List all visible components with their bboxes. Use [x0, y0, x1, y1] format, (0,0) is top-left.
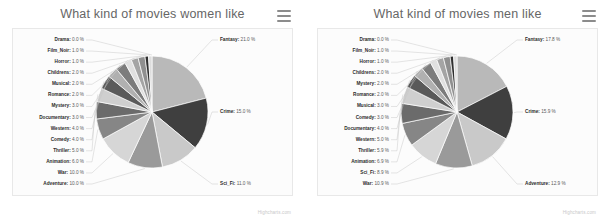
pie-data-label-value: 1.0 %: [376, 59, 389, 64]
pie-data-label-value: 4.0 %: [71, 125, 84, 130]
pie-label-connector: [391, 51, 455, 55]
pie-data-label: Film_Noir: 1.0 %: [353, 49, 389, 54]
pie-data-label-name: Comedy:: [356, 114, 376, 119]
pie-label-connector: [487, 40, 523, 63]
pie-label-connector: [86, 51, 150, 55]
pie-data-label-name: Childrens:: [353, 70, 376, 75]
pie-data-label-name: Film_Noir:: [48, 48, 71, 53]
pie-data-label-value: 10.9 %: [373, 181, 389, 186]
pie-data-label: Comedy: 3.0 %: [356, 115, 389, 120]
pie-data-label: Horror: 1.0 %: [55, 60, 84, 65]
pie-data-label-name: Mystery:: [51, 103, 70, 108]
pie-data-label-name: Musical:: [357, 103, 376, 108]
pie-data-label-name: Crime:: [220, 109, 235, 114]
pie-chart-men[interactable]: [305, 0, 610, 221]
pie-label-connector: [86, 110, 95, 151]
pie-data-label: Animation: 6.0 %: [46, 159, 84, 164]
pie-data-label-name: Romance:: [353, 92, 376, 97]
pie-data-label-name: Animation:: [351, 158, 375, 163]
pie-data-label-name: Sci_Fi:: [220, 181, 235, 186]
pie-data-label-name: Thriller:: [53, 147, 70, 152]
pie-data-label: Childrens: 2.0 %: [48, 71, 84, 76]
pie-data-label-name: Film_Noir:: [353, 48, 376, 53]
pie-data-label-value: 0.0 %: [376, 37, 389, 42]
pie-data-label-value: 6.0 %: [71, 158, 84, 163]
pie-data-label-value: 21.0 %: [239, 37, 255, 42]
pie-label-connector: [187, 40, 218, 67]
pie-data-label-name: Western:: [356, 136, 376, 141]
pie-label-connector: [86, 130, 98, 162]
pie-data-label-value: 2.0 %: [71, 92, 84, 97]
pie-data-label-value: 3.0 %: [376, 103, 389, 108]
pie-label-connector: [208, 112, 218, 124]
dashboard-stage: What kind of movies women like Fantasy: …: [0, 0, 610, 221]
pie-data-label-value: 5.9 %: [376, 147, 389, 152]
pie-data-label: Documentary: 4.0 %: [344, 126, 389, 131]
pie-data-label: Musical: 3.0 %: [357, 104, 389, 109]
pie-data-label: Crime: 15.0 %: [220, 110, 251, 115]
chart-panel-women: What kind of movies women like Fantasy: …: [0, 0, 305, 221]
pie-data-label-value: 12.9 %: [550, 181, 566, 186]
pie-data-label-value: 0.0 %: [71, 37, 84, 42]
pie-data-label: Musical: 2.0 %: [52, 82, 84, 87]
pie-data-label-value: 2.0 %: [376, 70, 389, 75]
pie-data-label-value: 15.9 %: [540, 109, 556, 114]
pie-data-label: Romance: 2.0 %: [48, 93, 84, 98]
pie-data-label-value: 4.0 %: [71, 136, 84, 141]
pie-data-label: Animation: 6.9 %: [351, 159, 389, 164]
pie-data-label: Thriller: 5.0 %: [53, 148, 84, 153]
pie-data-label: Horror: 1.0 %: [360, 60, 389, 65]
pie-label-connector: [181, 161, 218, 184]
pie-data-label-value: 2.0 %: [376, 81, 389, 86]
pie-data-label-value: 8.9 %: [376, 170, 389, 175]
pie-data-label-value: 3.0 %: [376, 114, 389, 119]
pie-data-label-name: Fantasy:: [220, 37, 239, 42]
pie-data-label-name: Sci_Fi:: [360, 170, 375, 175]
pie-data-label-value: 2.0 %: [376, 92, 389, 97]
pie-data-label: Documentary: 3.0 %: [39, 115, 84, 120]
pie-data-label-name: Comedy:: [51, 136, 71, 141]
pie-data-label-value: 4.0 %: [376, 125, 389, 130]
chart-panel-men: What kind of movies men like Fantasy: 17…: [305, 0, 610, 221]
pie-data-label-value: 10.0 %: [68, 181, 84, 186]
pie-data-label: Romance: 2.0 %: [353, 93, 389, 98]
pie-data-label-value: 1.0 %: [71, 48, 84, 53]
pie-data-label-name: Childrens:: [48, 70, 71, 75]
pie-data-label-name: Documentary:: [344, 125, 376, 130]
pie-data-label-value: 3.0 %: [71, 114, 84, 119]
credit-text[interactable]: Highcharts.com: [258, 210, 291, 215]
pie-data-label-value: 2.0 %: [71, 70, 84, 75]
pie-data-label: Western: 5.0 %: [356, 137, 389, 142]
pie-data-label-name: Crime:: [525, 109, 540, 114]
pie-label-connector: [514, 112, 523, 113]
pie-data-label: Fantasy: 17.8 %: [525, 38, 560, 43]
pie-data-label-value: 15.0 %: [235, 109, 251, 114]
pie-data-label: Sci_Fi: 11.0 %: [220, 182, 251, 187]
pie-data-label-value: 5.0 %: [376, 136, 389, 141]
pie-data-label-value: 1.0 %: [71, 59, 84, 64]
pie-data-label-name: Romance:: [48, 92, 71, 97]
pie-data-label-value: 17.8 %: [544, 37, 560, 42]
pie-data-label-name: Fantasy:: [525, 37, 544, 42]
pie-label-connector: [391, 157, 422, 173]
pie-data-label: Fantasy: 21.0 %: [220, 38, 255, 43]
pie-data-label-name: Adventure:: [525, 181, 550, 186]
pie-data-label: Thriller: 5.9 %: [358, 148, 389, 153]
pie-data-label-name: War:: [58, 170, 68, 175]
pie-data-label-name: Horror:: [55, 59, 71, 64]
pie-data-label-name: Western:: [51, 125, 71, 130]
pie-data-label-name: Musical:: [52, 81, 71, 86]
pie-chart-women[interactable]: [0, 0, 305, 221]
pie-data-label-name: Thriller:: [358, 147, 375, 152]
pie-data-label: Adventure: 10.0 %: [43, 182, 84, 187]
credit-text[interactable]: Highcharts.com: [563, 210, 596, 215]
pie-data-label: Drama: 0.0 %: [55, 38, 84, 43]
pie-label-connector: [391, 169, 454, 184]
pie-data-label: Drama: 0.0 %: [360, 38, 389, 43]
pie-data-label-value: 6.9 %: [376, 158, 389, 163]
pie-data-label-name: Adventure:: [43, 181, 68, 186]
pie-data-label: Film_Noir: 1.0 %: [48, 49, 84, 54]
pie-data-label-name: Documentary:: [39, 114, 71, 119]
pie-data-label: Mystery: 2.0 %: [356, 82, 389, 87]
pie-label-connector: [493, 157, 523, 184]
